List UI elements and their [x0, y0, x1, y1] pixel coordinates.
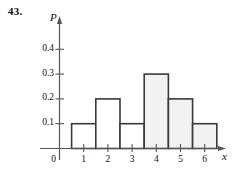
- x-tick-label: 2: [98, 154, 118, 164]
- histogram-bar: [168, 99, 192, 149]
- x-tick-label: 5: [171, 154, 191, 164]
- histogram-plot: [0, 0, 237, 175]
- x-axis-label: x: [222, 150, 227, 162]
- histogram-bar: [144, 74, 168, 148]
- x-tick-label: 3: [122, 154, 142, 164]
- histogram-bar: [96, 99, 120, 149]
- x-tick-label: 6: [195, 154, 215, 164]
- y-axis-label: P: [50, 11, 57, 23]
- x-tick-label: 1: [74, 154, 94, 164]
- x-tick-label: 4: [146, 154, 166, 164]
- y-tick-label: 0.1: [26, 117, 54, 127]
- figure-container: 43. P x 0.10.20.30.4 0123456: [0, 0, 237, 175]
- y-tick-label: 0.2: [26, 92, 54, 102]
- y-tick-label: 0.3: [26, 68, 54, 78]
- y-axis-arrow-icon: [57, 16, 62, 24]
- y-tick-label: 0.4: [26, 43, 54, 53]
- origin-label: 0: [44, 154, 64, 164]
- bars-layer: [72, 74, 217, 148]
